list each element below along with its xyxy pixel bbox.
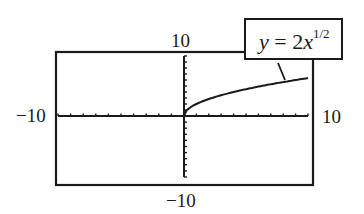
y-axis-max-label: 10 — [171, 31, 190, 50]
equation-label: y = 2x1/2 — [259, 29, 330, 55]
equation-exponent: 1/2 — [313, 26, 330, 41]
x-axis-min-label: −10 — [16, 106, 46, 125]
equation-coef: = 2 — [269, 29, 303, 54]
x-axis-max-label: 10 — [322, 107, 341, 126]
axes — [58, 56, 308, 177]
function-curve — [184, 78, 308, 116]
equation-label-box: y = 2x1/2 — [244, 18, 343, 60]
equation-y: y — [259, 29, 269, 54]
equation-x: x — [303, 29, 313, 54]
label-leader-line — [278, 63, 285, 80]
y-axis-min-label: −10 — [166, 191, 196, 210]
